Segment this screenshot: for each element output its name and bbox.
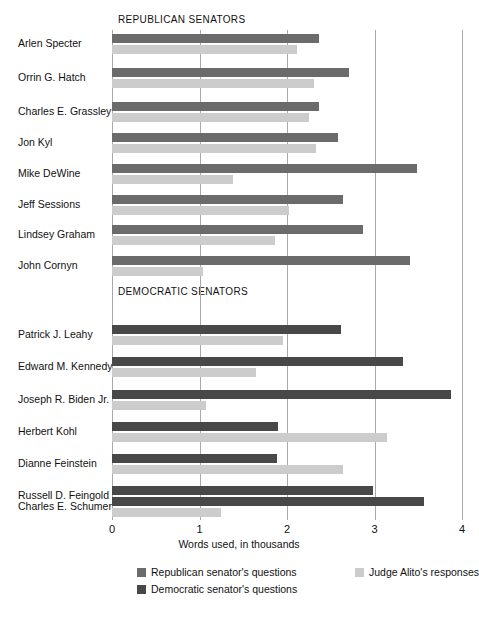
bar-responses <box>112 79 314 88</box>
gridline-4 <box>462 30 463 520</box>
legend-swatch-icon <box>137 585 146 594</box>
bar-questions <box>112 422 278 431</box>
bar-responses <box>112 465 343 474</box>
category-label: Orrin G. Hatch <box>18 71 86 83</box>
x-tick-label-0: 0 <box>102 523 122 535</box>
bar-questions <box>112 133 338 142</box>
bar-responses <box>112 508 221 517</box>
bar-responses <box>112 368 256 377</box>
category-label: Herbert Kohl <box>18 425 77 437</box>
bar-responses <box>112 336 283 345</box>
legend-label: Republican senator's questions <box>151 566 297 578</box>
x-tick-label-1: 1 <box>190 523 210 535</box>
legend-swatch-icon <box>137 568 146 577</box>
bar-questions <box>112 102 319 111</box>
category-label: Patrick J. Leahy <box>18 328 93 340</box>
bar-questions <box>112 68 349 77</box>
bar-responses <box>112 236 275 245</box>
x-axis-title: Words used, in thousands <box>0 538 478 550</box>
bar-questions <box>112 486 373 495</box>
bar-questions <box>112 195 343 204</box>
category-label: Lindsey Graham <box>18 228 95 240</box>
bar-questions <box>112 390 451 399</box>
gridline-3 <box>375 30 376 520</box>
bar-responses <box>112 267 203 276</box>
category-label: Edward M. Kennedy <box>18 360 113 372</box>
legend-label: Judge Alito's responses <box>369 566 479 578</box>
bar-questions <box>112 357 403 366</box>
category-label: John Cornyn <box>18 259 78 271</box>
section-title-democratic: DEMOCRATIC SENATORS <box>118 286 248 297</box>
legend-label: Democratic senator's questions <box>151 583 297 595</box>
bar-questions <box>112 497 424 506</box>
bar-responses <box>112 175 233 184</box>
category-label: Arlen Specter <box>18 37 82 49</box>
section-title-republican: REPUBLICAN SENATORS <box>118 14 245 25</box>
bar-questions <box>112 225 363 234</box>
bar-questions <box>112 34 319 43</box>
category-label: Jon Kyl <box>18 136 52 148</box>
category-label: Joseph R. Biden Jr. <box>18 393 109 405</box>
x-tick-label-4: 4 <box>452 523 472 535</box>
legend-swatch-icon <box>355 568 364 577</box>
bar-responses <box>112 144 316 153</box>
category-label: Jeff Sessions <box>18 198 80 210</box>
bar-responses <box>112 113 309 122</box>
bar-questions <box>112 256 410 265</box>
x-tick-label-3: 3 <box>365 523 385 535</box>
category-label: Charles E. Grassley <box>18 105 111 117</box>
category-label: Charles E. Schumer <box>18 500 112 512</box>
bar-questions <box>112 325 341 334</box>
bar-responses <box>112 401 206 410</box>
bar-responses <box>112 45 297 54</box>
category-label: Mike DeWine <box>18 167 80 179</box>
category-label: Dianne Feinstein <box>18 457 97 469</box>
bar-responses <box>112 433 387 442</box>
x-tick-label-2: 2 <box>277 523 297 535</box>
bar-questions <box>112 164 417 173</box>
bar-responses <box>112 206 289 215</box>
bar-questions <box>112 454 277 463</box>
